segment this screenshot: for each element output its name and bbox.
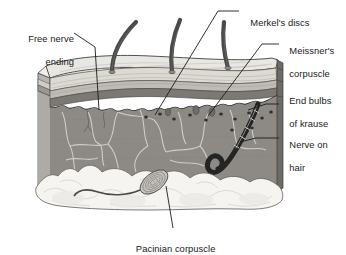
label-meissners-corpuscle-line2: corpuscle <box>289 68 330 79</box>
block-right-edge <box>277 60 283 192</box>
label-nerve-on-hair-line2: hair <box>289 162 305 173</box>
label-end-bulbs-of-krause-line1: End bulbs <box>289 95 331 106</box>
label-nerve-on-hair: Nerve on hair <box>284 128 346 174</box>
label-free-nerve-ending-line1: Free nerve <box>28 33 74 44</box>
label-meissners-corpuscle: Meissner's corpuscle <box>284 34 346 80</box>
label-merkels-discs-line1: Merkel's discs <box>250 17 309 28</box>
label-free-nerve-ending: Free nerve ending <box>8 22 74 68</box>
label-pacinian-corpuscle-line1: Pacinian corpuscle <box>136 243 216 254</box>
label-free-nerve-ending-line2: ending <box>46 56 74 67</box>
label-meissners-corpuscle-line1: Meissner's <box>289 45 334 56</box>
label-merkels-discs: Merkel's discs <box>245 6 345 29</box>
label-pacinian-corpuscle: Pacinian corpuscle <box>110 232 236 255</box>
label-end-bulbs-of-krause: End bulbs of krause <box>284 84 346 130</box>
label-nerve-on-hair-line1: Nerve on <box>289 139 327 150</box>
